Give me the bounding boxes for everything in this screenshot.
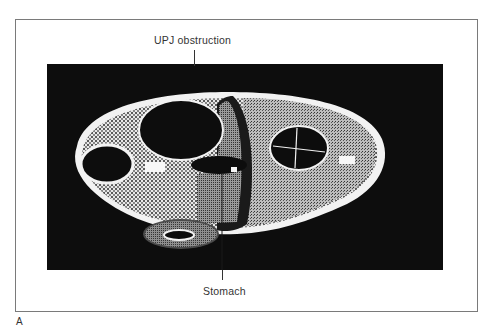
upj-obstruction-label: UPJ obstruction — [154, 34, 231, 46]
stomach-leader-line — [222, 270, 223, 280]
stomach-label: Stomach — [203, 285, 246, 297]
upj-obstruction-cyst — [139, 100, 223, 160]
upj-leader-line — [194, 50, 195, 66]
pancreas-region — [143, 219, 219, 249]
kidney — [270, 126, 328, 170]
panel-letter: A — [16, 316, 23, 327]
dark-elongated-structure — [191, 156, 247, 174]
left-vessel — [81, 145, 133, 183]
ct-cross-section-illustration — [47, 64, 443, 270]
